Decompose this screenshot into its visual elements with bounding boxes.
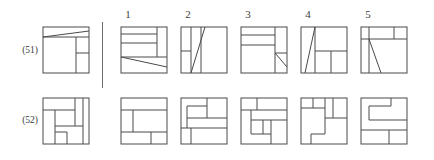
figure-border — [361, 27, 407, 73]
option-51-2[interactable] — [180, 26, 228, 74]
figure-segment — [275, 53, 287, 67]
option-52-4[interactable] — [300, 97, 348, 145]
option-51-1[interactable] — [120, 26, 168, 74]
column-header-1: 1 — [108, 8, 148, 20]
option-51-3[interactable] — [240, 26, 288, 74]
figure-segment — [121, 57, 167, 67]
option-52-1[interactable] — [120, 97, 168, 145]
option-52-5[interactable] — [360, 97, 408, 145]
option-52-2[interactable] — [180, 97, 228, 145]
figure-border — [241, 98, 287, 144]
row-label-52: (52) — [8, 115, 38, 125]
option-51-4[interactable] — [300, 26, 348, 74]
figure-segment — [305, 27, 315, 73]
figure-border — [301, 98, 347, 144]
column-header-3: 3 — [228, 8, 268, 20]
prompt-figure-51 — [42, 26, 90, 74]
option-52-3[interactable] — [240, 97, 288, 145]
row-label-51: (51) — [8, 45, 38, 55]
vertical-divider — [102, 22, 103, 88]
figure-segment — [369, 39, 381, 73]
figure-border — [241, 27, 287, 73]
option-51-5[interactable] — [360, 26, 408, 74]
figure-border — [181, 27, 227, 73]
column-header-5: 5 — [348, 8, 388, 20]
figure-segment — [43, 31, 89, 37]
figure-border — [43, 98, 89, 144]
figure-border — [121, 98, 167, 144]
column-header-2: 2 — [168, 8, 208, 20]
figure-border — [361, 98, 407, 144]
figure-border — [181, 98, 227, 144]
test-sheet: 12345(51)(52) — [0, 0, 434, 160]
figure-border — [301, 27, 347, 73]
figure-segment — [191, 27, 205, 73]
column-header-4: 4 — [288, 8, 328, 20]
prompt-figure-52 — [42, 97, 90, 145]
